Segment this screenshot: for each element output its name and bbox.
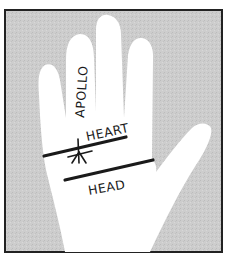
palm-diagram: APOLLO HEART HEAD (0, 0, 227, 260)
